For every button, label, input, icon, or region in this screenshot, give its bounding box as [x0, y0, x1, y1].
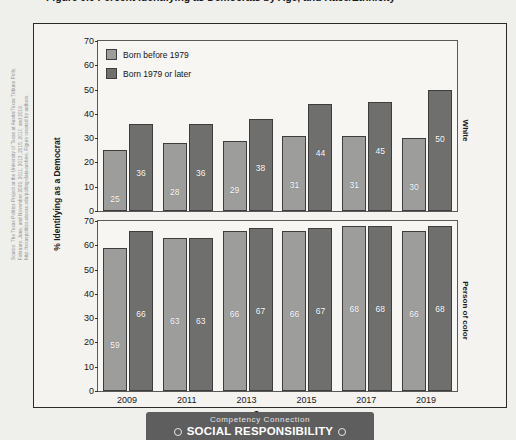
bar-value-label: 38: [256, 164, 265, 210]
bar-value-label: 66: [409, 310, 418, 390]
bar-value-label: 44: [316, 149, 325, 210]
y-axis-tick: 0: [60, 386, 94, 396]
x-axis-tick: 2013: [217, 395, 277, 405]
bar-value-label: 36: [196, 169, 205, 210]
y-axis-tick: 10: [60, 362, 94, 372]
bar[interactable]: 45: [368, 102, 392, 211]
bar[interactable]: 63: [189, 238, 213, 391]
y-axis-tick: 50: [60, 85, 94, 95]
bar-value-label: 68: [435, 305, 444, 390]
chart-legend: Born before 1979 Born 1979 or later: [106, 45, 191, 83]
circle-icon-right: [338, 428, 346, 436]
page-title: Figure 9.6 Percent Identifying as Democr…: [46, 0, 476, 4]
y-axis-tick: 0: [60, 206, 94, 216]
bar[interactable]: 68: [342, 226, 366, 391]
bar[interactable]: 59: [103, 248, 127, 391]
panel-strip-label-person-of-color: Person of color: [461, 225, 470, 397]
panel-person-of-color: 010203040506070596366666866666367676868: [97, 220, 458, 392]
bar[interactable]: 44: [308, 104, 332, 211]
bar-value-label: 59: [110, 341, 119, 390]
legend-item-born-1979-or-later[interactable]: Born 1979 or later: [106, 64, 191, 83]
banner-eyebrow: Competency Connection: [146, 414, 374, 425]
x-axis-tick: 2009: [97, 395, 157, 405]
bar[interactable]: 66: [282, 231, 306, 391]
y-axis-tick: 20: [60, 337, 94, 347]
bar-value-label: 68: [350, 305, 359, 390]
bar-value-label: 66: [230, 310, 239, 390]
banner-title-row: SOCIAL RESPONSIBILITY: [146, 425, 374, 438]
y-axis-tick: 60: [60, 60, 94, 70]
bar-value-label: 66: [136, 310, 145, 390]
bar[interactable]: 36: [189, 124, 213, 211]
x-axis-tick: 2017: [336, 395, 396, 405]
bar[interactable]: 29: [223, 141, 247, 211]
x-axis-tick: 2015: [276, 395, 336, 405]
bar-value-label: 66: [290, 310, 299, 390]
bar-value-label: 63: [196, 317, 205, 390]
legend-label: Born before 1979: [123, 50, 189, 60]
bar[interactable]: 36: [129, 124, 153, 211]
bar[interactable]: 31: [342, 136, 366, 211]
bar-value-label: 31: [350, 181, 359, 210]
y-axis-tick: 40: [60, 109, 94, 119]
x-axis-tick: 2011: [157, 395, 217, 405]
chart-figure: % Identifying as a Democrat Born before …: [33, 23, 507, 408]
plot-area-person-of-color: 010203040506070596366666866666367676868: [98, 221, 457, 391]
bar-value-label: 45: [376, 147, 385, 210]
bar-value-label: 67: [256, 307, 265, 390]
bar[interactable]: 67: [308, 228, 332, 391]
source-note: Source: The Texas Politics Project at th…: [11, 60, 31, 260]
bar[interactable]: 28: [163, 143, 187, 211]
legend-item-born-before-1979[interactable]: Born before 1979: [106, 45, 191, 64]
circle-icon-left: [174, 428, 182, 436]
bar-value-label: 36: [136, 169, 145, 210]
y-axis-tick: 60: [60, 240, 94, 250]
y-axis-tick: 30: [60, 313, 94, 323]
y-axis-tick: 50: [60, 265, 94, 275]
legend-label: Born 1979 or later: [123, 69, 191, 79]
bar[interactable]: 68: [368, 226, 392, 391]
bar-value-label: 28: [170, 188, 179, 210]
bar-value-label: 25: [110, 195, 119, 210]
bar-value-label: 30: [409, 183, 418, 210]
bar-value-label: 68: [376, 305, 385, 390]
y-axis-tick: 70: [60, 216, 94, 226]
bar-value-label: 67: [316, 307, 325, 390]
panel-strip-label-white: White: [461, 45, 470, 217]
x-axis-tick: 2019: [396, 395, 456, 405]
bar[interactable]: 38: [249, 119, 273, 211]
bar-value-label: 63: [170, 317, 179, 390]
bar[interactable]: 67: [249, 228, 273, 391]
bar-value-label: 50: [435, 135, 444, 210]
plot-area-white: Born before 1979 Born 1979 or later 0102…: [98, 41, 457, 211]
y-axis-tick: 70: [60, 36, 94, 46]
bar[interactable]: 66: [129, 231, 153, 391]
y-axis-tick: 40: [60, 289, 94, 299]
competency-connection-banner: Competency Connection SOCIAL RESPONSIBIL…: [146, 412, 374, 440]
bar-value-label: 29: [230, 186, 239, 210]
bar-value-label: 31: [290, 181, 299, 210]
bar[interactable]: 25: [103, 150, 127, 211]
banner-title: SOCIAL RESPONSIBILITY: [187, 425, 333, 438]
y-axis-tick: 10: [60, 182, 94, 192]
bar[interactable]: 66: [223, 231, 247, 391]
bar[interactable]: 30: [402, 138, 426, 211]
bar[interactable]: 63: [163, 238, 187, 391]
panel-white: Born before 1979 Born 1979 or later 0102…: [97, 40, 458, 212]
legend-swatch-icon-dark: [106, 68, 117, 79]
bar[interactable]: 66: [402, 231, 426, 391]
legend-swatch-icon-light: [106, 49, 117, 60]
bar[interactable]: 68: [428, 226, 452, 391]
y-axis-tick: 30: [60, 133, 94, 143]
bar[interactable]: 50: [428, 90, 452, 211]
y-axis-tick: 20: [60, 157, 94, 167]
x-axis: 200920112013201520172019: [97, 392, 458, 408]
bar[interactable]: 31: [282, 136, 306, 211]
